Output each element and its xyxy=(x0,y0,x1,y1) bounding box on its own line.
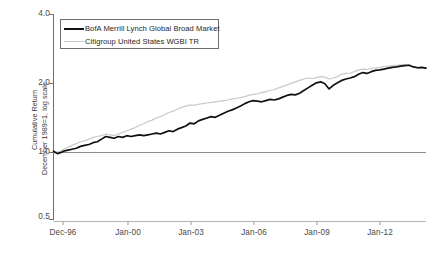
x-tick-label-4: Jan-09 xyxy=(294,228,340,237)
legend-item-bofa: BofA Merrill Lynch Global Broad Market xyxy=(64,22,215,35)
series-line-citigroup xyxy=(54,64,427,152)
legend-swatch-black-line-icon xyxy=(64,28,84,30)
legend-item-citigroup: Citigroup United States WGBI TR xyxy=(64,35,215,48)
x-tick-label-5: Jan-12 xyxy=(357,228,403,237)
chart-figure: Cumulative Return December 1989=1, log s… xyxy=(0,0,434,255)
series-line-bofa xyxy=(54,65,427,153)
source-footnote xyxy=(6,246,430,254)
legend-label-bofa: BofA Merrill Lynch Global Broad Market xyxy=(85,24,220,33)
x-tick-label-3: Jan-06 xyxy=(231,228,277,237)
x-tick-label-0: Dec-96 xyxy=(40,228,86,237)
legend-swatch-gray-line-icon xyxy=(64,41,84,42)
x-tick-label-2: Jan-03 xyxy=(168,228,214,237)
x-tick-label-1: Jan-00 xyxy=(105,228,151,237)
legend-label-citigroup: Citigroup United States WGBI TR xyxy=(85,37,199,46)
x-tick-marks xyxy=(63,222,380,226)
chart-legend: BofA Merrill Lynch Global Broad Market C… xyxy=(60,19,219,49)
